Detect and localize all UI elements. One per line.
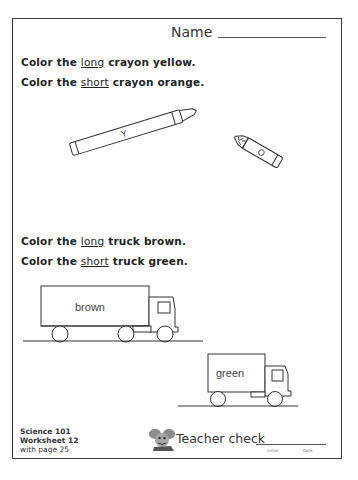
instruction-long-truck: Color the long truck brown. xyxy=(21,235,186,247)
instruction-text: truck brown. xyxy=(104,235,186,247)
long-truck-label: brown xyxy=(75,301,105,313)
worksheet-page: Name Color the long crayon yellow. Color… xyxy=(12,18,342,459)
instruction-keyword: long xyxy=(81,235,104,247)
page-reference: with page 25 xyxy=(20,445,78,454)
instruction-text: truck green. xyxy=(109,255,188,267)
short-truck-label: green xyxy=(216,367,244,379)
instruction-short-truck: Color the short truck green. xyxy=(21,255,188,267)
mouse-mascot-icon xyxy=(149,428,175,452)
teacher-check-line[interactable] xyxy=(256,444,326,445)
short-crayon[interactable]: O xyxy=(232,132,283,168)
long-crayon[interactable]: Y xyxy=(69,105,198,156)
long-crayon-label: Y xyxy=(120,128,129,139)
course-name: Science 101 xyxy=(20,427,78,436)
initial-label: Initial xyxy=(267,448,278,453)
date-label: Date xyxy=(303,448,313,453)
worksheet-number: Worksheet 12 xyxy=(20,436,78,445)
worksheet-info: Science 101 Worksheet 12 with page 25 xyxy=(20,427,78,454)
teacher-check-label: Teacher check xyxy=(176,431,265,446)
instruction-keyword: short xyxy=(81,255,109,267)
instruction-text: Color the xyxy=(21,255,81,267)
long-truck[interactable]: brown xyxy=(23,286,203,342)
instruction-text: Color the xyxy=(21,235,81,247)
short-truck[interactable]: green xyxy=(178,354,298,407)
